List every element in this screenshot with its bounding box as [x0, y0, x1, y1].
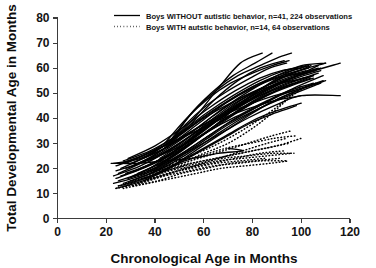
y-axis-title: Total Developmental Age in Months [4, 4, 19, 231]
x-tick-label: 100 [291, 225, 311, 239]
y-axis-ticks: 01020304050607080 [36, 11, 57, 226]
y-tick-label: 70 [36, 36, 50, 50]
x-tick-label: 60 [197, 225, 211, 239]
y-tick-label: 50 [36, 86, 50, 100]
y-tick-label: 40 [36, 111, 50, 125]
x-tick-label: 20 [100, 225, 114, 239]
y-tick-label: 80 [36, 11, 50, 25]
legend-label-without-autism: Boys WITHOUT autistic behavior, n=41, 22… [146, 12, 352, 21]
y-tick-label: 10 [36, 187, 50, 201]
chart-canvas: Total Developmental Age in Months Chrono… [0, 0, 376, 268]
growth-curve-chart-figure: Total Developmental Age in Months Chrono… [0, 0, 376, 268]
x-tick-label: 80 [246, 225, 260, 239]
x-axis-title: Chronological Age in Months [111, 251, 298, 266]
y-tick-label: 60 [36, 61, 50, 75]
x-tick-label: 120 [340, 225, 360, 239]
y-tick-label: 30 [36, 137, 50, 151]
y-tick-label: 0 [43, 212, 50, 226]
x-tick-label: 40 [148, 225, 162, 239]
y-tick-label: 20 [36, 162, 50, 176]
legend-label-with-autism: Boys WITH autstic behavior, n=14, 64 obs… [146, 23, 330, 32]
x-tick-label: 0 [54, 225, 61, 239]
